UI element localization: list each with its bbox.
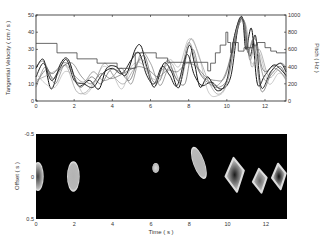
heatmap-blob	[152, 163, 159, 173]
top-panel: 024681012 01020304050 02004006008001000 …	[5, 12, 320, 109]
bottom-x-axis-label: Time ( s )	[148, 229, 173, 235]
top-x-tick-label: 4	[111, 103, 114, 109]
bottom-x-tick-label: 8	[188, 221, 191, 227]
top-y2-tick-label: 200	[288, 81, 297, 87]
top-y-tick-label: 0	[31, 98, 34, 104]
top-y-axis-label: Tangential Velocity ( cm / s )	[5, 21, 11, 96]
bottom-x-tick-label: 4	[111, 221, 114, 227]
top-y-tick-label: 30	[28, 46, 34, 52]
bottom-x-tick-label: 6	[149, 221, 152, 227]
bottom-x-tick-label: 12	[263, 221, 269, 227]
top-y2-tick-label: 800	[288, 29, 297, 35]
heatmap-blob	[67, 161, 80, 192]
bottom-panel: 024681012 -0.500.5 Time ( s ) Offset ( s…	[14, 131, 287, 235]
figure: 024681012 01020304050 02004006008001000 …	[0, 0, 323, 247]
bottom-y-tick-label: 0.5	[26, 216, 34, 222]
top-y2-ticks: 02004006008001000	[284, 12, 300, 104]
bottom-y-axis-label: Offset ( s )	[14, 162, 20, 190]
top-y-tick-label: 10	[28, 81, 34, 87]
top-y2-tick-label: 600	[288, 46, 297, 52]
top-x-tick-label: 10	[224, 103, 230, 109]
bottom-y-tick-label: 0	[31, 174, 34, 180]
top-x-tick-label: 12	[262, 103, 268, 109]
top-x-tick-label: 8	[187, 103, 190, 109]
top-y-tick-label: 50	[28, 12, 34, 18]
bottom-y-tick-label: -0.5	[25, 131, 34, 137]
top-y2-axis-label: Pitch ( Hz )	[314, 43, 320, 73]
bottom-x-tick-label: 2	[73, 221, 76, 227]
top-y-tick-label: 20	[28, 64, 34, 70]
bottom-x-ticks: 024681012	[34, 221, 269, 227]
bottom-x-tick-label: 0	[34, 221, 37, 227]
bottom-y-ticks: -0.500.5	[25, 131, 34, 222]
top-y2-tick-label: 400	[288, 64, 297, 70]
top-x-tick-label: 0	[34, 103, 37, 109]
top-y2-tick-label: 1000	[288, 12, 300, 18]
top-x-tick-label: 6	[149, 103, 152, 109]
top-y2-tick-label: 0	[288, 98, 291, 104]
bottom-x-tick-label: 10	[225, 221, 231, 227]
top-y-tick-label: 40	[28, 29, 34, 35]
top-x-tick-label: 2	[73, 103, 76, 109]
